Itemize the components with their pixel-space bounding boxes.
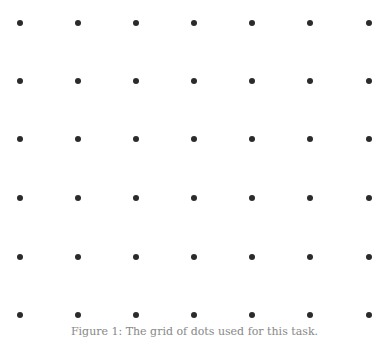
grid-dot [133,20,139,26]
grid-dot [366,312,372,318]
grid-dot [133,254,139,260]
grid-dot [191,20,197,26]
grid-dot [249,254,255,260]
grid-dot [191,312,197,318]
grid-dot [75,136,81,142]
grid-dot [75,78,81,84]
grid-dot [17,78,23,84]
grid-dot [307,195,313,201]
grid-dot [191,78,197,84]
grid-dot [307,20,313,26]
grid-dot [249,312,255,318]
grid-dot [133,136,139,142]
grid-dot [249,20,255,26]
grid-dot [191,254,197,260]
figure-caption: Figure 1: The grid of dots used for this… [0,325,389,338]
grid-dot [307,78,313,84]
grid-dot [191,195,197,201]
grid-dot [75,254,81,260]
grid-dot [249,195,255,201]
grid-dot [307,136,313,142]
grid-dot [133,195,139,201]
grid-dot [17,254,23,260]
grid-dot [366,78,372,84]
grid-dot [307,312,313,318]
grid-dot [75,195,81,201]
grid-dot [249,78,255,84]
grid-dot [17,20,23,26]
grid-dot [307,254,313,260]
grid-dot [366,254,372,260]
grid-dot [17,195,23,201]
grid-dot [17,312,23,318]
grid-dot [75,20,81,26]
grid-dot [366,20,372,26]
grid-dot [191,136,197,142]
grid-dot [17,136,23,142]
grid-dot [366,136,372,142]
grid-dot [133,78,139,84]
grid-dot [75,312,81,318]
grid-dot [133,312,139,318]
grid-dot [249,136,255,142]
grid-dot [366,195,372,201]
